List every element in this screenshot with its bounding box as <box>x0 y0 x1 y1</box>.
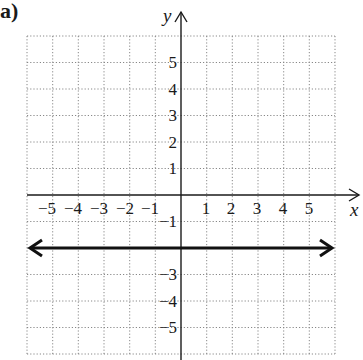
y-axis-label: y <box>161 5 172 26</box>
x-tick: 1 <box>202 199 211 218</box>
x-tick: −3 <box>90 199 108 218</box>
y-tick: −4 <box>159 292 178 311</box>
coordinate-plane: a) y x −5 −4 −3 −2 −1 1 2 3 4 5 5 4 3 2 … <box>0 0 363 360</box>
x-tick: 2 <box>227 199 236 218</box>
y-tick: −5 <box>159 318 177 337</box>
y-tick: −3 <box>159 265 177 284</box>
axes <box>27 12 359 360</box>
x-tick: −5 <box>38 199 56 218</box>
y-tick: 4 <box>169 80 178 99</box>
x-tick: −2 <box>116 199 134 218</box>
x-tick: −1 <box>141 199 159 218</box>
y-tick: 2 <box>169 133 178 152</box>
y-tick: 1 <box>169 159 178 178</box>
y-tick: −1 <box>159 212 177 231</box>
x-tick: 4 <box>279 199 288 218</box>
part-label: a) <box>0 0 18 23</box>
x-tick: 3 <box>253 199 262 218</box>
y-tick: 5 <box>169 53 178 72</box>
y-tick: 3 <box>169 106 178 125</box>
x-tick: 5 <box>305 199 314 218</box>
x-axis-label: x <box>349 199 359 220</box>
x-tick: −4 <box>64 199 83 218</box>
